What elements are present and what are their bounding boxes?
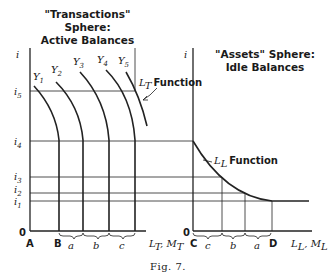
right-origin-label: 0	[183, 227, 190, 238]
point-d-label: D	[269, 238, 277, 249]
point-a-label: A	[26, 238, 34, 249]
segment-b-right: b	[230, 240, 236, 251]
point-b-label: B	[54, 238, 62, 249]
segment-b-left: b	[93, 240, 99, 251]
brace-a-left	[59, 233, 83, 239]
brace-c-right	[193, 233, 222, 239]
brace-b-right	[222, 233, 245, 239]
y1-label: Y1	[33, 71, 44, 85]
i1-label: i1	[14, 196, 22, 210]
i4-label: i4	[14, 136, 22, 150]
segment-a-right: a	[254, 240, 260, 251]
y4-label: Y4	[97, 54, 108, 68]
left-x-axis-label: LT, MT	[148, 238, 185, 252]
brace-b-left	[83, 233, 109, 239]
y3-curve	[80, 72, 109, 231]
y3-label: Y3	[73, 56, 85, 70]
segment-a-left: a	[68, 240, 74, 251]
ll-function-label: LLFunction	[213, 155, 278, 169]
y1-curve	[34, 86, 59, 231]
brace-c-left	[109, 233, 135, 239]
segment-c-right: c	[205, 240, 211, 251]
lt-arrowhead-icon	[143, 96, 148, 100]
y4-curve	[106, 70, 135, 231]
y2-label: Y2	[51, 64, 63, 78]
y2-curve	[56, 82, 83, 231]
i3-label: i3	[14, 171, 22, 185]
diagram-canvas: i i5 i4 i3 i2 i1 0 Y1 Y2 Y3 Y4 Y5 LTFunc…	[0, 0, 331, 279]
segment-c-left: c	[119, 240, 125, 251]
figure-caption: Fig. 7.	[150, 261, 186, 272]
y5-label: Y5	[118, 55, 130, 69]
point-c-label: C	[190, 238, 197, 249]
left-origin-label: 0	[19, 227, 26, 238]
right-i-axis-label: i	[184, 49, 187, 60]
right-x-axis-label: LL, ML	[290, 238, 328, 252]
i5-label: i5	[14, 86, 22, 100]
brace-a-right	[245, 233, 271, 239]
ll-function-curve	[193, 141, 309, 201]
left-i-axis-label: i	[16, 49, 19, 60]
